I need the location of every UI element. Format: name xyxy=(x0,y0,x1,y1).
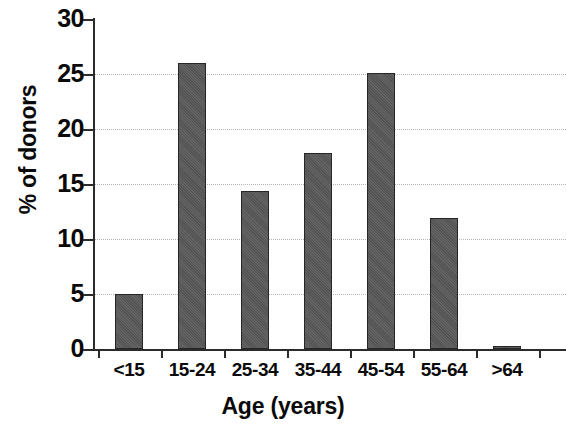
x-axis-tick-labels: <1515-2425-3435-4445-5455-64>64 xyxy=(93,360,566,390)
y-axis-tick-mark xyxy=(83,74,93,76)
y-axis-tick-mark xyxy=(83,19,93,21)
y-axis-tick-mark xyxy=(83,349,93,351)
x-axis-tick-mark xyxy=(224,350,226,358)
bar xyxy=(178,63,206,349)
bar xyxy=(367,73,395,349)
bar xyxy=(304,153,332,349)
y-axis-tick-label: 0 xyxy=(26,336,84,361)
plot-area xyxy=(93,19,566,349)
y-axis-tick-mark xyxy=(83,184,93,186)
gridline xyxy=(93,129,566,130)
x-axis-tick-mark xyxy=(98,350,100,358)
x-axis-tick-mark xyxy=(161,350,163,358)
y-axis-tick-mark xyxy=(83,239,93,241)
gridline xyxy=(93,74,566,75)
y-axis-tick-label: 15 xyxy=(26,171,84,196)
y-axis-tick-label: 20 xyxy=(26,116,84,141)
y-axis-tick-labels: 051015202530 xyxy=(26,0,84,427)
x-axis-tick-mark xyxy=(287,350,289,358)
y-axis-line xyxy=(93,18,95,351)
x-axis-tick-mark xyxy=(476,350,478,358)
y-axis-tick-label: 10 xyxy=(26,226,84,251)
bar xyxy=(115,294,143,349)
x-axis-tick-mark xyxy=(413,350,415,358)
y-axis-tick-label: 25 xyxy=(26,61,84,86)
x-axis-title: Age (years) xyxy=(0,393,566,420)
x-axis-line xyxy=(93,349,566,351)
x-axis-tick-label: >64 xyxy=(462,360,552,379)
y-axis-tick-mark xyxy=(83,129,93,131)
y-axis-tick-mark xyxy=(83,294,93,296)
x-axis-tick-mark xyxy=(539,350,541,358)
x-axis-tick-mark xyxy=(350,350,352,358)
bar xyxy=(241,191,269,349)
y-axis-tick-label: 30 xyxy=(26,6,84,31)
bar-chart: % of donors 051015202530 <1515-2425-3435… xyxy=(0,0,566,427)
bar xyxy=(430,218,458,349)
y-axis-tick-label: 5 xyxy=(26,281,84,306)
